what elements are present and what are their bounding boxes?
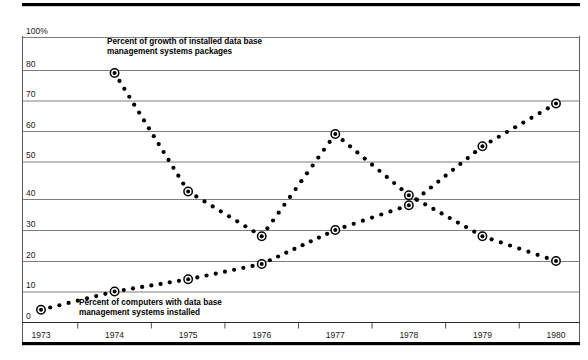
data-point-marker [258,260,266,268]
series-dot [505,130,509,134]
series-dot [398,206,402,210]
annotation-line: management systems installed [79,308,200,317]
series-dot [325,232,329,236]
series-dot [132,103,136,107]
y-tick-label: 10 [26,280,36,290]
series-dot [355,150,359,154]
data-point-marker [258,232,266,240]
data-point-marker [405,191,413,199]
series-dot [149,283,153,287]
series-dot [277,211,281,215]
series-dot [142,118,146,122]
series-dot [194,194,198,198]
series-dot [529,116,533,120]
series-dot [282,203,286,207]
series-dot [158,282,162,286]
series-dot [379,212,383,216]
data-point-marker [110,69,118,77]
line-chart: 100%80706050403020100 197319741975197619… [0,0,588,360]
series-dot [48,305,52,309]
series-dot [363,156,367,160]
series-dot [508,243,512,247]
series-dot [57,303,61,307]
x-tick-label: 1974 [105,330,124,340]
series-dot [299,179,303,183]
series-dot [227,214,231,218]
x-tick-label: 1977 [326,330,345,340]
series-dot [489,139,493,143]
series-dot [513,125,517,129]
data-point-marker [331,130,339,138]
series-dot [526,250,530,254]
series-dot [211,204,215,208]
series-dot [370,163,374,167]
series-dot [458,162,462,166]
series-dot [423,202,427,206]
series-dot [444,174,448,178]
series-dot [472,230,476,234]
data-point-marker [331,226,339,234]
series-dot [361,219,365,223]
annotation-line: Percent of growth of installed data base [107,37,263,46]
series-dot [265,226,269,230]
series-dot [429,185,433,189]
x-tick-label: 1976 [252,330,271,340]
series-dot [300,243,304,247]
series-dot [431,207,435,211]
series-dot [147,126,151,130]
x-tick-label: 1973 [32,330,51,340]
series-dot [448,216,452,220]
series-dot [305,171,309,175]
series-dot [181,182,185,186]
series-dot [214,271,218,275]
y-tick-label: 80 [26,59,36,69]
series-dot [316,156,320,160]
y-tick-label: 50 [26,150,36,160]
series-dot [276,254,280,258]
series-dot [137,110,141,114]
series-dot [451,168,455,172]
series-dot [288,195,292,199]
data-point-marker [478,142,486,150]
y-tick-label: 100% [26,26,48,36]
top-rule [22,3,580,6]
series-dot [250,264,254,268]
series-dot [127,95,131,99]
series-dot [341,138,345,142]
series-dot [176,174,180,178]
series-dot [140,285,144,289]
series-dot [536,253,540,257]
chart-container: 100%80706050403020100 197319741975197619… [0,0,588,360]
series-dot [66,301,70,305]
data-point-marker [37,306,45,314]
x-tick-label: 1979 [473,330,492,340]
series-dot [204,273,208,277]
series-dot [219,209,223,213]
series-dot [232,268,236,272]
annotation-line: Percent of computers with data base [79,298,222,307]
data-point-marker [110,287,118,295]
data-point-marker [405,201,413,209]
annotation-line: management systems packages [107,47,233,56]
y-tick-label: 40 [26,188,36,198]
series-dot [235,219,239,223]
series-dot [499,240,503,244]
series-dot [122,87,126,91]
series-dot [385,175,389,179]
y-tick-label: 30 [26,219,36,229]
series-dot [284,251,288,255]
series-dot [117,79,121,83]
series-dot [342,225,346,229]
series-dot [223,270,227,274]
data-point-marker [552,99,560,107]
y-tick-label: 20 [26,250,36,260]
series-dot [166,158,170,162]
series-dot [490,237,494,241]
series-dot [268,258,272,262]
series-dot [414,197,418,201]
series-dot [309,239,313,243]
data-point-marker [552,257,560,265]
series-dot [311,163,315,167]
series-dot [171,166,175,170]
series-dot [152,134,156,138]
